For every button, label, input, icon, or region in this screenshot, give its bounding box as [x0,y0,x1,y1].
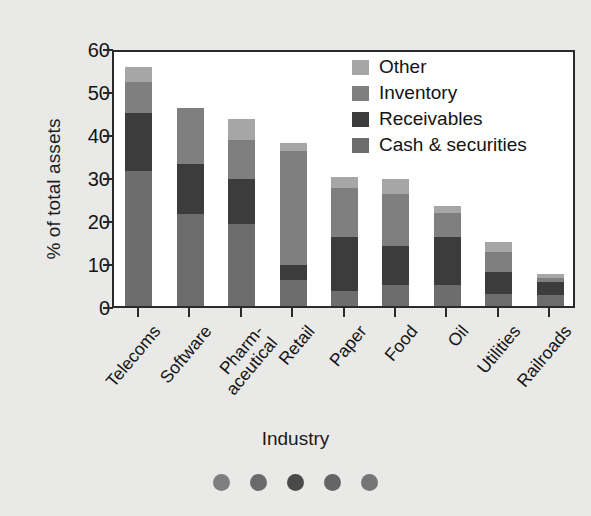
bar-oil [434,206,461,306]
bar-segment-inventory [228,140,255,179]
bar-segment-cashsecurities [382,285,409,307]
bar-segment-other [228,119,255,141]
bar-segment-other [382,179,409,194]
bar-segment-inventory [331,188,358,237]
bar-segment-inventory [280,151,307,265]
x-tick-label: Oil [375,322,472,433]
bar-telecoms [125,67,152,306]
bar-segment-receivables [280,265,307,280]
bar-paper [331,177,358,306]
bar-segment-cashsecurities [434,285,461,307]
legend-label: Inventory [379,82,457,104]
bar-segment-inventory [177,108,204,164]
bar-segment-receivables [177,164,204,213]
chart-figure: % of total assets 0102030405060 Telecoms… [0,0,591,516]
x-tick-label: Telecoms [66,322,163,433]
x-tick-label: Paper [272,322,369,433]
x-tick-mark [343,308,345,317]
slide-progress-dots[interactable] [0,474,591,491]
progress-dot-1[interactable] [213,474,230,491]
bar-segment-inventory [382,194,409,246]
bar-segment-receivables [434,237,461,284]
legend-label: Other [379,56,427,78]
bar-food [382,179,409,306]
progress-dot-4[interactable] [324,474,341,491]
progress-dot-3[interactable] [287,474,304,491]
legend-label: Receivables [379,108,483,130]
legend-swatch [352,138,369,153]
legend-item-cashsecurities: Cash & securities [352,132,572,158]
x-tick-label: Food [323,322,420,433]
x-axis-title: Industry [0,428,591,450]
bar-segment-cashsecurities [177,214,204,306]
progress-dot-5[interactable] [361,474,378,491]
bar-software [177,108,204,306]
bar-pharmaceutical [228,119,255,306]
bar-segment-receivables [228,179,255,224]
bar-retail [280,143,307,306]
bar-railroads [537,274,564,306]
legend-swatch [352,86,369,101]
bar-segment-cashsecurities [537,295,564,306]
progress-dot-2[interactable] [250,474,267,491]
bar-segment-inventory [125,82,152,112]
bar-segment-inventory [434,213,461,238]
bar-segment-other [280,143,307,152]
bar-segment-receivables [485,272,512,295]
bar-segment-receivables [125,113,152,172]
bar-segment-cashsecurities [485,294,512,306]
bar-segment-other [331,177,358,188]
x-tick-mark [291,308,293,317]
x-tick-label: Railroads [478,322,575,433]
bar-segment-cashsecurities [125,171,152,306]
x-tick-mark [240,308,242,317]
legend-swatch [352,112,369,127]
bar-segment-inventory [485,252,512,271]
bar-utilities [485,242,512,306]
legend-swatch [352,60,369,75]
bar-segment-other [485,242,512,252]
legend-item-other: Other [352,54,572,80]
x-tick-mark [548,308,550,317]
legend-label: Cash & securities [379,134,527,156]
x-tick-mark [137,308,139,317]
bar-segment-receivables [537,282,564,295]
bar-segment-cashsecurities [280,280,307,306]
bar-segment-cashsecurities [331,291,358,306]
bar-segment-receivables [382,246,409,285]
bar-segment-other [125,67,152,82]
x-tick-mark [394,308,396,317]
bar-segment-cashsecurities [228,224,255,306]
legend-item-inventory: Inventory [352,80,572,106]
chart-legend: OtherInventoryReceivablesCash & securiti… [352,54,572,158]
x-tick-mark [445,308,447,317]
x-tick-mark [188,308,190,317]
bar-segment-receivables [331,237,358,291]
x-tick-mark [497,308,499,317]
legend-item-receivables: Receivables [352,106,572,132]
x-tick-label: Utilities [426,322,523,433]
